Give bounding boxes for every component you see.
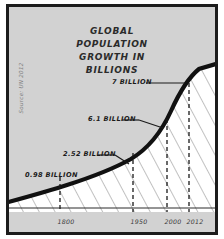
source-note: Source: UN 2012 (18, 58, 24, 118)
xtick-label-2000: 2000 (165, 218, 182, 225)
chart-panel: GLOBAL POPULATION GROWTH IN BILLIONS Sou… (6, 4, 218, 235)
chart-title: GLOBAL POPULATION GROWTH IN BILLIONS (9, 25, 215, 77)
title-line-3: GROWTH IN (9, 51, 215, 64)
annotation-252-billion: 2.52 BILLION (63, 150, 116, 158)
title-line-4: BILLIONS (9, 64, 215, 77)
title-line-1: GLOBAL (9, 25, 215, 38)
xtick-label-1950: 1950 (131, 218, 148, 225)
xtick-label-2012: 2012 (187, 218, 204, 225)
figure-root: GLOBAL POPULATION GROWTH IN BILLIONS Sou… (0, 0, 224, 239)
title-line-2: POPULATION (9, 38, 215, 51)
annotation-098-billion: 0.98 BILLION (25, 171, 78, 179)
plot-area: GLOBAL POPULATION GROWTH IN BILLIONS Sou… (9, 7, 215, 232)
annotation-61-billion: 6.1 BILLION (88, 115, 136, 123)
xtick-label-1800: 1800 (58, 218, 75, 225)
annotation-7-billion: 7 BILLION (112, 78, 152, 86)
